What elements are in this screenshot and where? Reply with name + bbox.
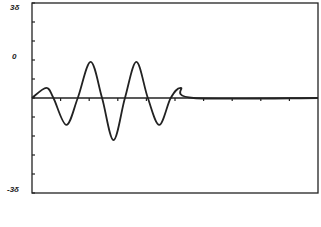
y-label-bottom: -3δ <box>7 185 19 194</box>
y-label-mid: 0 <box>12 52 16 61</box>
chart <box>0 0 321 227</box>
waveform-line <box>32 62 318 140</box>
y-label-top: 3δ <box>10 3 19 12</box>
